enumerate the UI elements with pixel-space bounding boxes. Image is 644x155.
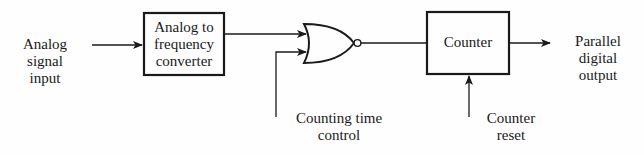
analog-signal-input-label: Analog signal input [12,36,78,87]
counting-time-control-line [276,52,306,117]
nor-gate-icon [304,24,354,63]
label-line: signal [12,53,78,70]
label-line: Counter [427,34,509,51]
label-line: input [12,70,78,87]
label-line: control [284,127,394,144]
label-line: Parallel [560,33,636,50]
block-diagram: Analog signal input Analog to frequency … [0,0,644,155]
label-line: Analog [12,36,78,53]
label-line: output [560,67,636,84]
label-line: converter [144,53,224,70]
counter-reset-label: Counter reset [476,110,546,144]
label-line: Analog to [144,19,224,36]
label-line: reset [476,127,546,144]
counter-label: Counter [427,34,509,51]
nor-gate-bubble [354,40,361,47]
label-line: frequency [144,36,224,53]
parallel-digital-output-label: Parallel digital output [560,33,636,84]
a2f-converter-label: Analog to frequency converter [144,19,224,70]
label-line: Counter [476,110,546,127]
counting-time-control-label: Counting time control [284,110,394,144]
label-line: Counting time [284,110,394,127]
label-line: digital [560,50,636,67]
